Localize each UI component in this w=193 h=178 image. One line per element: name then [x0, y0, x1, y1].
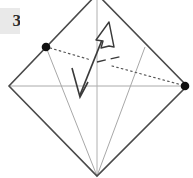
- arrowhead-up-icon: [96, 22, 114, 48]
- fold-axis-dash: [97, 56, 123, 62]
- crease-left-diagonal: [46, 47, 97, 176]
- dotted-segment-left: [50, 48, 91, 60]
- dotted-segment-right: [112, 66, 182, 85]
- origami-figure: 3: [0, 0, 193, 178]
- alignment-dotted-line: [50, 48, 182, 85]
- reference-point-left: [42, 43, 51, 52]
- fold-diagram-svg: [0, 0, 193, 178]
- diamond-outline: [9, 0, 187, 176]
- reference-point-right: [181, 82, 190, 91]
- crease-lines-group: [9, 0, 187, 176]
- crease-right-diagonal: [97, 47, 145, 176]
